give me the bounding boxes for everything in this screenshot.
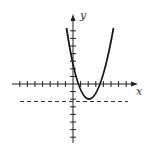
y-axis-arrow-icon [71,14,76,21]
y-axis: y [70,9,87,143]
graph-canvas: x y [0,0,146,145]
y-axis-label: y [79,9,87,22]
x-axis-label: x [136,85,143,98]
